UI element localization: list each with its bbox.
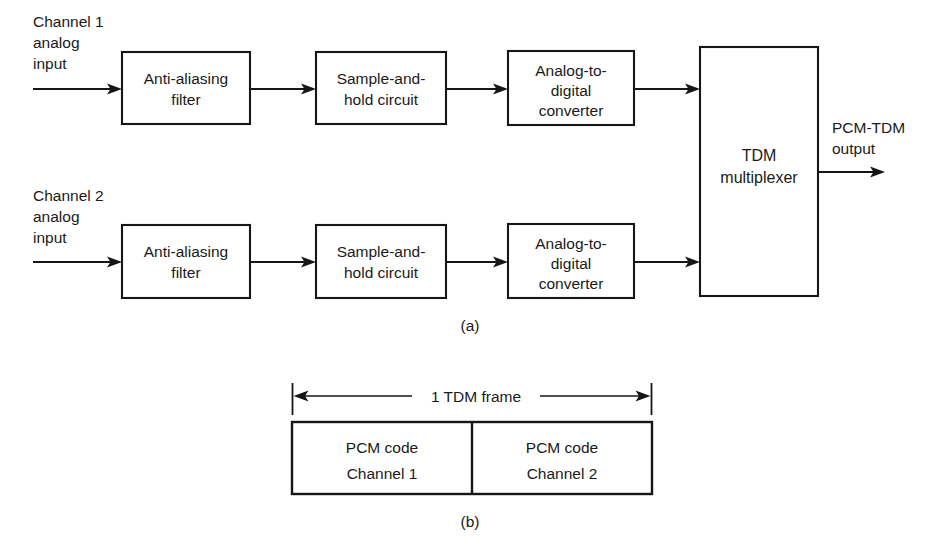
channel-1-input-label: Channel 1 analog input (33, 13, 104, 72)
ch1-connector-adc-to-mux (634, 83, 700, 94)
ch1-connector-sh-to-adc (446, 83, 508, 94)
frame-slot-1-line1: PCM code (526, 439, 598, 456)
ch1-block-1-line1: Sample-and- (337, 70, 426, 87)
frame-slot-0-line2: Channel 1 (347, 465, 418, 482)
pcm-tdm-output-label: PCM-TDM output (832, 119, 905, 157)
frame-slot-0-line1: PCM code (346, 439, 418, 456)
ch1-block-2-line3: converter (539, 102, 604, 119)
ch2-block-2-line3: converter (539, 275, 604, 292)
figure-canvas: Channel 1 analog input Anti-aliasing fil… (0, 0, 946, 560)
frame-slot-1-line2: Channel 2 (527, 465, 598, 482)
channel-1-input-line3: input (33, 55, 67, 72)
ch2-connector-filter-to-sh (250, 256, 316, 267)
tdm-multiplexer-line2: multiplexer (720, 169, 798, 186)
tdm-frame-box (292, 422, 652, 494)
pcm-tdm-output-line2: output (832, 140, 876, 157)
channel-1-input-arrow (33, 83, 122, 94)
ch2-connector-adc-to-mux (634, 256, 700, 267)
channel-1-input-line2: analog (33, 34, 80, 51)
ch1-block-1-line2: hold circuit (344, 91, 419, 108)
ch1-block-0-line2: filter (171, 91, 200, 108)
ch2-connector-sh-to-adc (446, 256, 508, 267)
ch1-block-2-line2: digital (551, 82, 592, 99)
channel-2-input-line2: analog (33, 208, 80, 225)
channel-2-input-arrow (33, 256, 122, 267)
ch2-sample-and-hold-block: Sample-and- hold circuit (316, 225, 446, 298)
ch2-analog-to-digital-converter-block: Analog-to- digital converter (508, 224, 634, 298)
ch2-block-1-line2: hold circuit (344, 264, 419, 281)
tdm-multiplexer-block: TDM multiplexer (700, 47, 818, 296)
pcm-tdm-diagram: Channel 1 analog input Anti-aliasing fil… (0, 0, 946, 560)
ch2-block-0-line2: filter (171, 264, 200, 281)
tdm-multiplexer-line1: TDM (742, 147, 777, 164)
channel-2-input-line3: input (33, 229, 67, 246)
ch1-sample-and-hold-block: Sample-and- hold circuit (316, 52, 446, 124)
part-a-caption: (a) (461, 317, 480, 334)
ch2-block-1-line1: Sample-and- (337, 243, 426, 260)
frame-dimension-arrow-left (294, 391, 413, 402)
channel-2-input-label: Channel 2 analog input (33, 187, 104, 246)
ch1-connector-filter-to-sh (250, 83, 316, 94)
ch1-analog-to-digital-converter-block: Analog-to- digital converter (508, 51, 634, 125)
part-b-caption: (b) (461, 513, 480, 530)
ch2-block-0-line1: Anti-aliasing (144, 243, 228, 260)
ch1-block-0-line1: Anti-aliasing (144, 70, 228, 87)
ch2-anti-aliasing-filter-block: Anti-aliasing filter (122, 225, 250, 298)
channel-2-input-line1: Channel 2 (33, 187, 104, 204)
ch1-block-2-line1: Analog-to- (535, 62, 607, 79)
ch2-block-2-line1: Analog-to- (535, 235, 607, 252)
frame-dimension-label: 1 TDM frame (431, 388, 521, 405)
ch1-anti-aliasing-filter-block: Anti-aliasing filter (122, 52, 250, 124)
channel-1-input-line1: Channel 1 (33, 13, 104, 30)
pcm-tdm-output-line1: PCM-TDM (832, 119, 905, 136)
ch2-block-2-line2: digital (551, 255, 592, 272)
frame-dimension-arrow-right (540, 390, 651, 401)
pcm-tdm-output-arrow (818, 166, 885, 177)
